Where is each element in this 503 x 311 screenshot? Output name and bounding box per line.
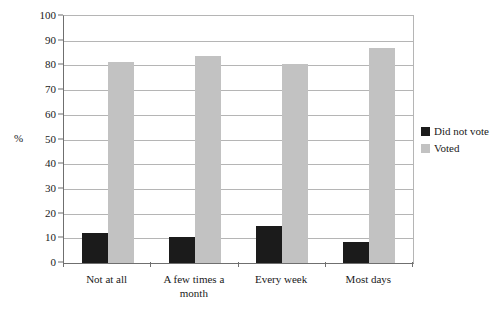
bar-group: [239, 16, 326, 263]
x-axis-tick-mark: [412, 262, 413, 267]
x-axis-tick-mark: [238, 262, 239, 267]
bar: [169, 237, 195, 263]
bar-group: [326, 16, 413, 263]
bar: [343, 242, 369, 263]
bar-group: [151, 16, 238, 263]
x-axis-label: A few times amonth: [150, 272, 237, 300]
x-axis-label-line: month: [150, 286, 237, 300]
y-axis-tick-label: 30: [26, 182, 56, 193]
y-axis-tick-labels: 1009080706050403020100: [26, 0, 56, 311]
legend-item: Voted: [421, 142, 503, 154]
y-axis-tick-label: 100: [26, 10, 56, 21]
y-axis-tick-label: 50: [26, 133, 56, 144]
bar: [108, 62, 134, 263]
x-axis-label-line: Every week: [238, 272, 325, 286]
bar-chart: % 1009080706050403020100 Not at allA few…: [0, 0, 503, 311]
x-axis-tick-mark: [150, 262, 151, 267]
y-axis-tick-label: 60: [26, 108, 56, 119]
bar: [82, 233, 108, 263]
y-axis-tick-label: 40: [26, 158, 56, 169]
x-axis-label: Most days: [325, 272, 412, 286]
bar: [282, 64, 308, 263]
y-axis-title: %: [14, 132, 23, 144]
legend-swatch-icon: [421, 144, 430, 153]
x-axis-label-line: Not at all: [63, 272, 150, 286]
y-axis-tick-label: 80: [26, 59, 56, 70]
bar-group: [64, 16, 151, 263]
x-axis-tick-mark: [325, 262, 326, 267]
legend-label: Did not vote: [434, 125, 489, 137]
y-axis-tick-label: 90: [26, 34, 56, 45]
x-axis-tick-mark: [63, 262, 64, 267]
bar: [369, 48, 395, 263]
legend-item: Did not vote: [421, 125, 503, 137]
y-axis-tick-label: 0: [26, 257, 56, 268]
x-axis-label-line: Most days: [325, 272, 412, 286]
bar: [195, 56, 221, 263]
legend-label: Voted: [434, 142, 459, 154]
x-axis-label: Every week: [238, 272, 325, 286]
y-axis-tick-label: 20: [26, 207, 56, 218]
y-axis-tick-label: 10: [26, 232, 56, 243]
x-axis-label: Not at all: [63, 272, 150, 286]
chart-legend: Did not voteVoted: [421, 125, 503, 159]
y-axis-tick-label: 70: [26, 84, 56, 95]
legend-swatch-icon: [421, 127, 430, 136]
bar: [256, 226, 282, 263]
plot-area: [63, 15, 414, 264]
x-axis-label-line: A few times a: [150, 272, 237, 286]
